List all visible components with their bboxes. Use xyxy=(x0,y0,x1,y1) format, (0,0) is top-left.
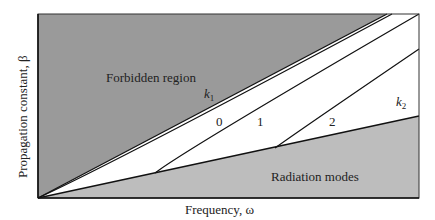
mode-2-label: 2 xyxy=(329,114,336,129)
mode-1-label: 1 xyxy=(257,114,264,129)
x-axis-label: Frequency, ω xyxy=(185,202,255,217)
forbidden-region-label: Forbidden region xyxy=(106,70,196,85)
radiation-region-label: Radiation modes xyxy=(271,169,359,184)
y-axis-label: Propagation constant, β xyxy=(15,55,30,178)
mode-0-label: 0 xyxy=(216,114,223,129)
dispersion-diagram: Forbidden region Radiation modes k1 k2 0… xyxy=(0,0,435,220)
